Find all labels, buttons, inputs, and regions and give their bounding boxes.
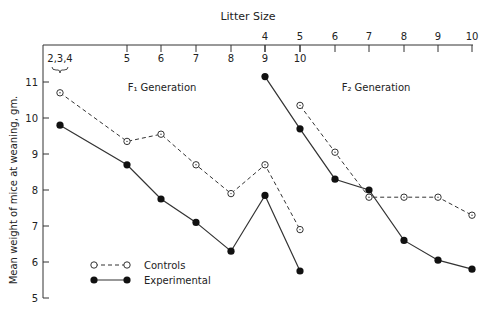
data-series bbox=[56, 73, 475, 275]
f1-x-tick-label: 5 bbox=[124, 53, 130, 64]
f2-experimental-point bbox=[468, 266, 475, 273]
f2-controls-line bbox=[300, 105, 472, 215]
f2-x-tick-label: 5 bbox=[297, 31, 303, 42]
y-tick-label: 8 bbox=[32, 185, 38, 196]
f1-generation-label: F₁ Generation bbox=[128, 82, 197, 93]
f2-x-tick-label: 4 bbox=[262, 31, 268, 42]
experimental-legend-marker bbox=[90, 276, 97, 283]
f1-experimental-point bbox=[296, 267, 303, 274]
f2-experimental-line bbox=[265, 77, 472, 270]
f2-experimental-point bbox=[400, 237, 407, 244]
f2-experimental-point bbox=[261, 73, 268, 80]
f1-experimental-point bbox=[227, 248, 234, 255]
y-tick-label: 7 bbox=[32, 221, 38, 232]
f2-experimental-point bbox=[365, 186, 372, 193]
f1-experimental-point bbox=[192, 219, 199, 226]
f1-experimental-point bbox=[56, 122, 63, 129]
y-axis-title: Mean weight of mice at weaning, gm. bbox=[8, 96, 19, 285]
y-tick-label: 9 bbox=[32, 149, 38, 160]
f2-experimental-point bbox=[434, 257, 441, 264]
y-tick-label: 11 bbox=[25, 77, 38, 88]
f2-x-tick-label: 8 bbox=[401, 31, 407, 42]
legend-controls-label: Controls bbox=[144, 260, 185, 271]
f1-x-tick-label: 7 bbox=[193, 53, 199, 64]
f1-x-tick-label: 9 bbox=[262, 53, 268, 64]
f2-x-tick-label: 10 bbox=[466, 31, 479, 42]
litter-size-weight-chart: Litter Size Mean weight of mice at weani… bbox=[0, 0, 490, 317]
f2-experimental-point bbox=[331, 176, 338, 183]
f2-experimental-point bbox=[296, 125, 303, 132]
f1-x-tick-label: 2,3,4 bbox=[47, 53, 72, 64]
f1-x-tick-label: 8 bbox=[228, 53, 234, 64]
y-tick-label: 6 bbox=[32, 257, 38, 268]
f2-generation-label: F₂ Generation bbox=[342, 82, 411, 93]
f1-x-tick-label: 6 bbox=[158, 53, 164, 64]
y-tick-label: 5 bbox=[32, 293, 38, 304]
f2-x-tick-label: 7 bbox=[366, 31, 372, 42]
y-tick-label: 10 bbox=[25, 113, 38, 124]
f1-experimental-point bbox=[123, 161, 130, 168]
controls-legend-marker bbox=[91, 262, 97, 268]
legend: Controls Experimental bbox=[90, 260, 210, 286]
f2-x-tick-label: 6 bbox=[332, 31, 338, 42]
f1-controls-line bbox=[60, 93, 300, 230]
f2-x-tick-label: 9 bbox=[435, 31, 441, 42]
legend-experimental-label: Experimental bbox=[144, 275, 211, 286]
f1-experimental-point bbox=[261, 192, 268, 199]
f1-x-tick-label: 10 bbox=[294, 53, 307, 64]
f1-experimental-point bbox=[157, 195, 164, 202]
top-axis-title: Litter Size bbox=[220, 10, 275, 23]
